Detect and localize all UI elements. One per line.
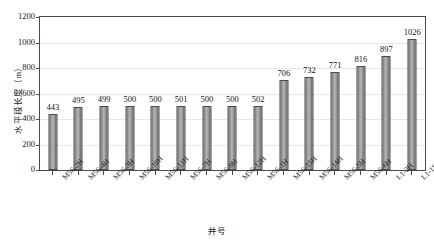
y-tick-mark [36, 68, 40, 69]
y-tick-label: 0 [0, 165, 38, 174]
x-axis-tick-labels: M56-2HM56-4HM56-3HM56-10HM56-11HM56-7HM5… [39, 176, 426, 218]
bar [408, 39, 417, 170]
bar-slot: 706 [271, 17, 297, 170]
x-tick-label: M56-10H [138, 176, 144, 182]
bar-slot: 499 [91, 17, 117, 170]
x-tick-mark [180, 171, 181, 175]
y-tick-mark [36, 43, 40, 44]
x-tick-label: L1-1H [420, 176, 426, 182]
bar-value-label: 500 [149, 95, 162, 104]
x-tick-label: M56-2H [61, 176, 67, 182]
bar-value-label: 500 [200, 95, 213, 104]
x-tick-mark [78, 171, 79, 175]
x-tick-label: M56-5H [343, 176, 349, 182]
x-tick-mark [232, 171, 233, 175]
x-tick-label: M56-7H [189, 176, 195, 182]
bar-value-label: 732 [303, 66, 316, 75]
bar-value-label: 500 [226, 95, 239, 104]
x-tick-label: M56-4H [87, 176, 93, 182]
x-tick-mark [309, 171, 310, 175]
x-tick-mark [155, 171, 156, 175]
bar [382, 56, 391, 170]
x-tick-mark [411, 171, 412, 175]
bar-value-label: 443 [46, 103, 59, 112]
x-tick-label: M56-15H [292, 176, 298, 182]
bar-value-label: 1026 [404, 28, 421, 37]
y-tick-label: 200 [0, 140, 38, 149]
x-tick-label: M56-9H [215, 176, 221, 182]
x-tick-label: L1-2H [395, 176, 401, 182]
x-tick-mark [386, 171, 387, 175]
bar-value-label: 897 [380, 45, 393, 54]
bar [48, 114, 57, 170]
x-axis-title: 井号 [0, 224, 434, 236]
bar-value-label: 500 [123, 95, 136, 104]
x-tick-mark [129, 171, 130, 175]
bar-slot: 501 [168, 17, 194, 170]
bar-value-label: 816 [354, 55, 367, 64]
y-axis-tick-labels: 120010008006004002000 [0, 0, 38, 243]
bar-slot: 502 [245, 17, 271, 170]
x-tick-label: M56-12H [241, 176, 247, 182]
bar-slot: 816 [348, 17, 374, 170]
plot-area: 4434954995005005015005005027067327718168… [39, 16, 426, 171]
bar-slot: 732 [297, 17, 323, 170]
y-tick-label: 800 [0, 63, 38, 72]
bar-slot: 1026 [399, 17, 425, 170]
bar-slot: 495 [66, 17, 92, 170]
bar-value-label: 502 [252, 95, 265, 104]
x-tick-mark [283, 171, 284, 175]
y-tick-label: 600 [0, 89, 38, 98]
y-tick-label: 1200 [0, 12, 38, 21]
bar-value-label: 495 [72, 96, 85, 105]
x-tick-mark [103, 171, 104, 175]
bar-value-label: 501 [175, 95, 188, 104]
x-tick-label: M56-3H [112, 176, 118, 182]
y-tick-mark [36, 94, 40, 95]
x-tick-mark [257, 171, 258, 175]
bar-value-label: 499 [98, 95, 111, 104]
bar-slot: 771 [322, 17, 348, 170]
bar-slot: 500 [143, 17, 169, 170]
bar [356, 66, 365, 170]
y-tick-label: 400 [0, 114, 38, 123]
bar-value-label: 706 [277, 69, 290, 78]
bar-value-label: 771 [329, 61, 342, 70]
x-tick-mark [206, 171, 207, 175]
x-tick-mark [360, 171, 361, 175]
bar-slot: 443 [40, 17, 66, 170]
bar-series: 4434954995005005015005005027067327718168… [40, 17, 425, 170]
x-tick-label: M56-6H [369, 176, 375, 182]
x-tick-label: M56-1H [266, 176, 272, 182]
bar-slot: 897 [374, 17, 400, 170]
y-tick-label: 1000 [0, 38, 38, 47]
x-tick-mark [334, 171, 335, 175]
x-tick-mark [52, 171, 53, 175]
y-tick-mark [36, 17, 40, 18]
x-tick-label: M56-14H [318, 176, 324, 182]
bar-slot: 500 [220, 17, 246, 170]
y-tick-mark [36, 145, 40, 146]
x-tick-label: M56-11H [164, 176, 170, 182]
bar-slot: 500 [117, 17, 143, 170]
y-tick-mark [36, 119, 40, 120]
bar-chart-figure: 水平段长度（m） 120010008006004002000 443495499… [0, 0, 434, 243]
bar-slot: 500 [194, 17, 220, 170]
